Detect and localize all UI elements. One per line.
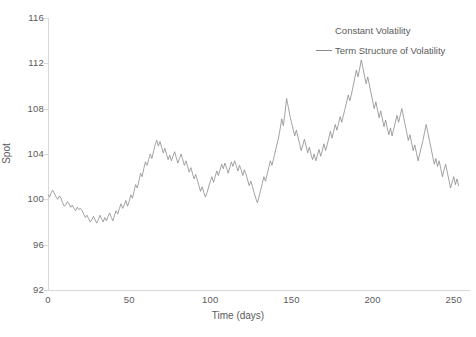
legend-item-constant-volatility[interactable]: Constant Volatility	[316, 20, 476, 40]
x-axis-title: Time (days)	[0, 310, 476, 321]
y-axis-title: Spot	[1, 134, 12, 174]
legend-item-term-structure-of-volatility[interactable]: Term Structure of Volatility	[316, 40, 476, 60]
x-axis-tick-label: 250	[434, 294, 474, 305]
y-axis-tick-label: 96	[4, 240, 44, 250]
x-axis-line	[48, 290, 470, 291]
y-axis-tick-label: 100	[4, 194, 44, 204]
legend-swatch-icon	[316, 30, 332, 31]
x-axis-tick-label: 50	[109, 294, 149, 305]
legend-swatch-icon	[316, 50, 332, 51]
x-axis-tick-label: 100	[190, 294, 230, 305]
x-axis-tick-label: 0	[28, 294, 68, 305]
x-axis-tick-label: 200	[353, 294, 393, 305]
legend-item-label: Term Structure of Volatility	[335, 45, 445, 56]
y-axis-tick-label: 108	[4, 104, 44, 114]
chart-container: 9296100104108112116 050100150200250 Time…	[0, 0, 476, 337]
y-axis-tick-label: 116	[4, 13, 44, 23]
y-axis-tick-label: 112	[4, 58, 44, 68]
x-axis-tick-label: 150	[271, 294, 311, 305]
chart-legend: Constant Volatility Term Structure of Vo…	[316, 20, 476, 60]
legend-item-label: Constant Volatility	[335, 25, 411, 36]
